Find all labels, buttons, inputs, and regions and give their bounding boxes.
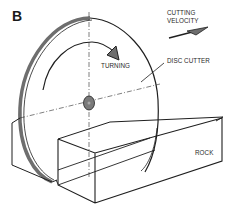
disc-rim (20, 18, 90, 182)
turning-label: TURNING (101, 63, 130, 69)
disc-cutter-label: DISC CUTTER (167, 58, 210, 64)
cutting-velocity-arrowhead (187, 27, 208, 35)
diagram-drawing (0, 0, 235, 214)
disc-face-outline (90, 18, 158, 172)
rock-label: ROCK (195, 150, 213, 156)
cutting-velocity-label-line2: VELOCITY (167, 18, 199, 24)
panel-label: B (12, 9, 22, 23)
rock-block-top (58, 117, 223, 139)
disc-cutter-leader (141, 63, 164, 82)
cutting-velocity-label-line1: CUTTING (167, 10, 195, 16)
disc-cutter-diagram: B CUTTING VELOCITY TURNING DISC CUTTER R… (0, 0, 235, 214)
